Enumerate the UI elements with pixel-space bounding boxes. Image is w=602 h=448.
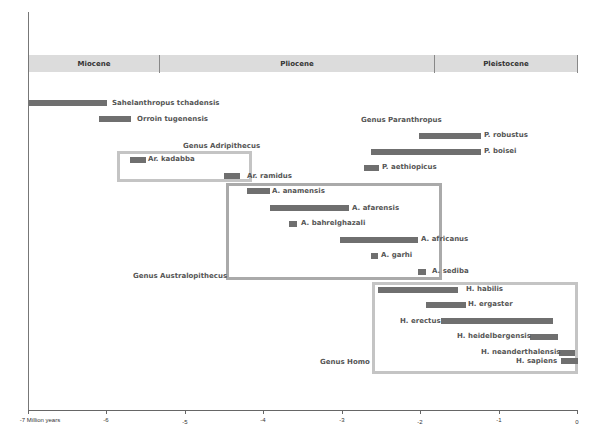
label-a-anamensis: A. anamensis [272,187,325,196]
bar-sahelanthropus [29,100,107,106]
epoch-pleistocene: Pleistocene [435,55,577,72]
x-tick-label: -7 Million years [20,417,60,423]
epoch-pliocene: Pliocene [160,55,434,72]
label-h-heidelbergensis: H. heidelbergensis [457,332,531,341]
label-a-africanus: A. africanus [421,235,468,244]
label-h-sapiens: H. sapiens [516,357,557,366]
bar-p-aethiopicus [364,165,379,171]
x-tick-label: -6 [103,417,108,423]
genus-australopithecus-box [226,183,442,280]
epoch-divider [577,55,578,73]
bar-a-afarensis [270,205,349,211]
genus-homo-label: Genus Homo [320,358,370,366]
x-tick-label: 0 [575,419,578,425]
x-tick [577,410,578,414]
label-a-bahrelghazali: A. bahrelghazali [301,219,365,228]
label-h-habilis: H. habilis [466,285,503,294]
bar-a-bahrelghazali [289,221,297,227]
x-tick [106,410,107,414]
label-h-ergaster: H. ergaster [468,300,513,309]
label-h-erectus: H. erectus [400,317,441,326]
x-axis-line [28,410,578,411]
bar-ar-ramidus [224,173,240,179]
epoch-miocene: Miocene [29,55,159,72]
x-tick-label: -4 [260,417,265,423]
label-h-neanderthalensis: H. neanderthalensis [481,348,561,357]
bar-h-habilis [378,287,458,293]
label-a-garhi: A. garhi [381,251,412,260]
bar-a-anamensis [247,188,270,194]
label-ar-kadabba: Ar. kadabba [148,155,195,164]
bar-h-erectus [441,318,553,324]
x-tick [342,410,343,414]
label-a-sediba: A. sediba [432,267,469,276]
bar-p-boisei [371,149,481,155]
label-p-aethiopicus: P. aethiopicus [382,163,437,172]
bar-p-robustus [419,133,481,139]
bar-ar-kadabba [130,157,146,163]
x-tick-label: -5 [182,419,187,425]
bar-orroin [99,116,131,122]
x-tick [28,410,29,414]
label-p-robustus: P. robustus [484,131,528,140]
bar-h-sapiens [561,358,578,364]
genus-paranthropus-label: Genus Paranthropus [361,116,442,124]
genus-adripithecus-label: Genus Adripithecus [183,142,260,150]
bar-h-ergaster [426,302,466,308]
label-a-afarensis: A. afarensis [352,204,399,213]
label-orroin: Orroin tugenensis [137,115,208,124]
label-sahelanthropus: Sahelanthropus tchadensis [112,99,219,108]
x-tick-label: -1 [496,417,501,423]
label-p-boisei: P. boisei [484,147,516,156]
x-tick [185,410,186,414]
x-tick [263,410,264,414]
x-tick-label: -2 [417,419,422,425]
x-tick [499,410,500,414]
label-ar-ramidus: Ar. ramidus [247,172,292,181]
x-tick [420,410,421,414]
bar-a-africanus [340,237,418,243]
bar-a-garhi [371,253,378,259]
genus-australopithecus-label: Genus Australopithecus [133,272,227,280]
bar-h-heidelbergensis [530,334,558,340]
x-tick-label: -3 [339,417,344,423]
bar-a-sediba [418,269,426,275]
bar-h-neanderthalensis [559,350,575,356]
